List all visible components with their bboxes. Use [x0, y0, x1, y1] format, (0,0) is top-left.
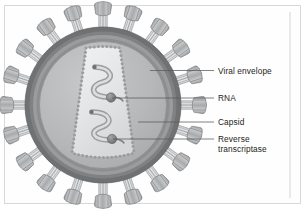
capsid-bead [129, 124, 132, 127]
capsid-bead [83, 55, 86, 58]
capsid-bead [98, 156, 101, 159]
rna-terminus-lower [90, 110, 94, 114]
capsid-bead [85, 47, 88, 50]
capsid-bead [123, 83, 126, 86]
capsid-bead [75, 117, 78, 120]
spike-head [63, 4, 84, 23]
capsid-bead [79, 88, 82, 91]
capsid-bead [73, 129, 76, 132]
capsid-bead [132, 149, 135, 152]
capsid-bead [71, 150, 74, 153]
capsid-bead [73, 133, 76, 136]
capsid-bead [82, 63, 85, 66]
spike-head [0, 96, 14, 113]
capsid-bead [122, 71, 125, 74]
capsid-bead [127, 108, 130, 111]
glycoprotein-spike [94, 1, 111, 31]
capsid-bead [119, 155, 122, 158]
capsid-bead [74, 125, 77, 128]
capsid-bead [131, 141, 134, 144]
glycoprotein-spike [94, 179, 111, 209]
figure-canvas: Viral envelope RNA Capsid Reverse transc… [0, 0, 307, 211]
capsid-bead [72, 142, 75, 145]
capsid-bead [85, 155, 88, 158]
capsid-bead [77, 104, 80, 107]
capsid-bead [84, 51, 87, 54]
capsid-bead [89, 46, 92, 49]
capsid-bead [114, 46, 117, 49]
capsid-bead [131, 152, 134, 155]
capsid-bead [71, 146, 74, 149]
capsid-bead [122, 75, 125, 78]
capsid-bead [114, 155, 117, 158]
capsid-bead [102, 156, 105, 159]
capsid-bead [124, 87, 127, 90]
label-rna: RNA [218, 94, 236, 104]
capsid-bead [73, 152, 76, 155]
capsid-bead [123, 79, 126, 82]
capsid-bead [101, 45, 104, 48]
capsid-bead [78, 92, 81, 95]
capsid-bead [83, 59, 86, 62]
spike-head [185, 124, 204, 145]
rna-terminus-upper [93, 65, 97, 69]
label-capsid: Capsid [218, 118, 244, 128]
capsid-bead [76, 113, 79, 116]
capsid-bead [110, 156, 113, 159]
capsid-bead [119, 50, 122, 53]
capsid-bead [128, 120, 131, 123]
capsid-bead [93, 45, 96, 48]
capsid-bead [81, 75, 84, 78]
capsid-bead [128, 116, 131, 119]
virus-diagram [0, 0, 307, 211]
label-viral-envelope: Viral envelope [218, 67, 272, 77]
capsid-bead [80, 80, 83, 83]
capsid-bead [130, 133, 133, 136]
capsid-bead [132, 145, 135, 148]
capsid-bead [124, 91, 127, 94]
rt-enzyme-upper [106, 93, 115, 102]
capsid-bead [120, 58, 123, 61]
spike-head [63, 187, 84, 206]
spike-head [2, 65, 21, 86]
capsid-bead [94, 156, 97, 159]
capsid-bead [77, 100, 80, 103]
spike-head [94, 194, 111, 208]
capsid-bead [78, 96, 81, 99]
spike-head [192, 96, 206, 113]
spike-head [185, 65, 204, 86]
capsid-bead [127, 112, 130, 115]
capsid-bead [72, 138, 75, 141]
spike-head [122, 4, 143, 23]
capsid-bead [89, 155, 92, 158]
capsid-bead [109, 45, 112, 48]
capsid-bead [77, 153, 80, 156]
capsid-bead [81, 154, 84, 157]
capsid-bead [118, 46, 121, 49]
capsid-bead [121, 62, 124, 65]
capsid-bead [126, 100, 129, 103]
capsid-bead [123, 154, 126, 157]
spike-head [122, 187, 143, 206]
capsid-bead [126, 104, 129, 107]
capsid-bead [105, 45, 108, 48]
spike-head [2, 124, 21, 145]
capsid-bead [127, 153, 130, 156]
capsid-bead [82, 67, 85, 70]
glycoprotein-spike [177, 96, 207, 113]
capsid-bead [129, 128, 132, 131]
capsid-bead [106, 156, 109, 159]
label-reverse-transcriptase: Reverse transcriptase [218, 135, 267, 154]
capsid-bead [80, 84, 83, 87]
capsid-bead [81, 71, 84, 74]
capsid-bead [120, 54, 123, 57]
spike-head [94, 1, 111, 15]
capsid-bead [76, 109, 79, 112]
capsid-bead [97, 45, 100, 48]
capsid-bead [75, 121, 78, 124]
capsid-bead [121, 66, 124, 69]
